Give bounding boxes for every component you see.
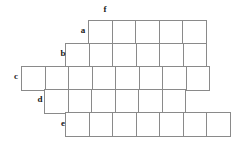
clue-label-e: e (58, 119, 68, 128)
clue-label-c: c (11, 72, 21, 81)
clue-label-f: f (100, 5, 110, 14)
crossword-puzzle-grid: fabcde (0, 0, 240, 147)
clue-label-b: b (58, 49, 68, 58)
clue-label-a: a (78, 26, 88, 35)
clue-labels-layer: fabcde (0, 0, 240, 147)
clue-label-d: d (35, 95, 45, 104)
